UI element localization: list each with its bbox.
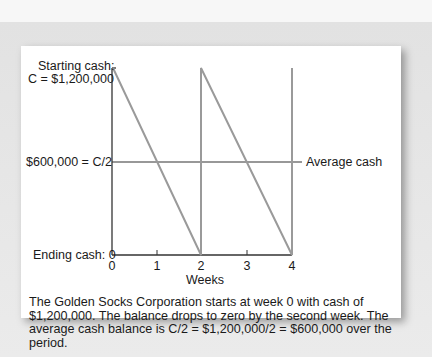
x-tick: 1 [154, 259, 161, 273]
x-tick: 0 [109, 259, 116, 273]
x-tick: 3 [244, 259, 251, 273]
x-tick: 2 [198, 259, 205, 273]
start-label-1: Starting cash: [38, 59, 114, 73]
mid-label: $600,000 = C/2 [26, 155, 112, 169]
figure-caption: The Golden Socks Corporation starts at w… [29, 296, 399, 350]
average-label: Average cash [306, 155, 382, 169]
x-tick: 4 [289, 259, 296, 273]
end-label: Ending cash: 0 [33, 248, 116, 262]
start-label-2: C = $1,200,000 [28, 72, 114, 86]
x-axis-label: Weeks [186, 273, 224, 287]
